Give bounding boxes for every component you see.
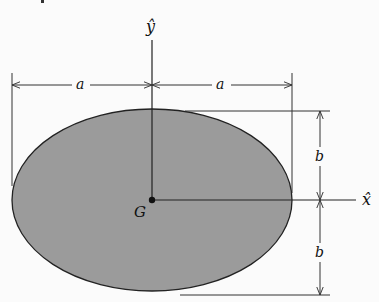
right-a-label: a: [216, 76, 224, 92]
upper-b-label: b: [315, 148, 324, 164]
ellipse-diagram: ŷ x̂ G a a b b: [0, 0, 379, 302]
centroid-point: [149, 197, 155, 203]
left-a-label: a: [76, 76, 84, 92]
diagram-svg: ŷ x̂ G a a b b: [0, 0, 379, 302]
cropped-text-fragment: [41, 0, 44, 3]
centroid-label: G: [134, 203, 146, 221]
x-axis-label: x̂: [362, 190, 371, 209]
y-axis-label: ŷ: [145, 17, 156, 36]
lower-b-label: b: [315, 244, 324, 260]
